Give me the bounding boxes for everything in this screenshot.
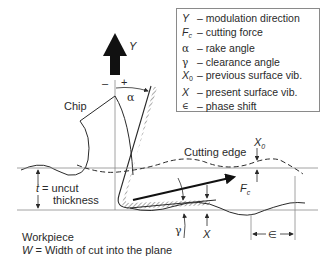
cutting-edge-label: Cutting edge bbox=[184, 146, 246, 158]
legend-desc: – modulation direction bbox=[197, 12, 300, 26]
minus-sign: – bbox=[102, 77, 109, 89]
legend-item: Fc – cutting force bbox=[182, 26, 319, 43]
modulation-direction-arrow bbox=[103, 33, 127, 75]
legend-symbol: X bbox=[182, 86, 197, 100]
legend-desc: – clearance angle bbox=[197, 56, 280, 70]
x0-label: X0 bbox=[253, 136, 265, 150]
epsilon-label: ∈ bbox=[268, 229, 277, 240]
workpiece-label: Workpiece bbox=[22, 231, 74, 243]
legend-desc: – rake angle bbox=[197, 42, 255, 56]
gamma-label: γ bbox=[175, 224, 182, 237]
alpha-label: α bbox=[127, 91, 135, 104]
legend-item: ∈ – phase shift bbox=[182, 100, 319, 114]
legend-item: α – rake angle bbox=[182, 42, 319, 56]
gamma-arrow bbox=[184, 214, 185, 238]
width-of-cut-label: W = Width of cut into the plane bbox=[22, 244, 172, 256]
plus-sign: + bbox=[121, 76, 127, 88]
legend-desc: – present surface vib. bbox=[197, 86, 297, 100]
legend-desc: – cutting force bbox=[197, 26, 263, 43]
previous-surface-wave bbox=[77, 159, 303, 174]
legend-item: γ – clearance angle bbox=[182, 56, 319, 70]
legend-box: Y – modulation direction Fc – cutting fo… bbox=[176, 8, 320, 112]
thickness-label-line1: t = uncut bbox=[36, 182, 79, 194]
legend-symbol: Y bbox=[182, 12, 197, 26]
y-label: Y bbox=[129, 40, 137, 52]
thickness-label-line2: thickness bbox=[53, 194, 99, 206]
legend-symbol: α bbox=[182, 42, 197, 56]
chip-label: Chip bbox=[64, 100, 87, 112]
legend-desc: – phase shift bbox=[197, 100, 257, 114]
legend-item: X – present surface vib. bbox=[182, 86, 319, 100]
legend-item: Y – modulation direction bbox=[182, 12, 319, 26]
x-label: X bbox=[202, 228, 211, 240]
legend-symbol: ∈ bbox=[182, 100, 197, 114]
legend-symbol: X0 bbox=[182, 69, 197, 86]
legend-item: X0 – previous surface vib. bbox=[182, 69, 319, 86]
fc-label: Fc bbox=[240, 182, 251, 196]
legend-symbol: Fc bbox=[182, 26, 197, 43]
legend-desc: – previous surface vib. bbox=[197, 69, 302, 86]
legend-symbol: γ bbox=[182, 56, 197, 70]
